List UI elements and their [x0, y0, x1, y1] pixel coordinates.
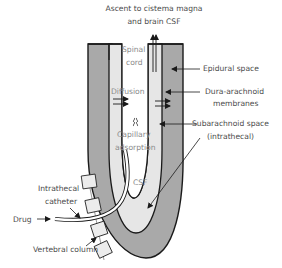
- spinal-cord-label-2: cord: [126, 58, 143, 67]
- vertebral-column-label: Vertebral column: [33, 245, 98, 254]
- dura-label-2: membranes: [213, 99, 259, 108]
- csf-label: CSF: [133, 178, 148, 187]
- intrathecal-drug-delivery-diagram: Ascent to cistema magna and brain CSF Sp…: [0, 0, 282, 268]
- catheter-label-2: catheter: [45, 197, 78, 206]
- title-line-2: and brain CSF: [127, 17, 180, 26]
- drug-label: Drug: [13, 215, 32, 224]
- catheter-label-1: Intrathecal: [38, 184, 79, 193]
- capillary-label-2: adsorption: [115, 143, 156, 152]
- catheter-leader: [70, 208, 80, 218]
- epidural-space-label: Epidural space: [203, 64, 259, 73]
- subarachnoid-label-2: (intrathecal): [207, 132, 254, 141]
- title-line-1: Ascent to cistema magna: [106, 4, 203, 13]
- spinal-cord-label-1: Spinal: [122, 45, 145, 54]
- diffusion-label: Diffusion: [111, 87, 145, 96]
- dura-label-1: Dura-arachnoid: [205, 87, 264, 96]
- subarachnoid-label-1: Subarachnoid space: [192, 119, 269, 128]
- capillary-label-1: Capillary: [117, 130, 151, 139]
